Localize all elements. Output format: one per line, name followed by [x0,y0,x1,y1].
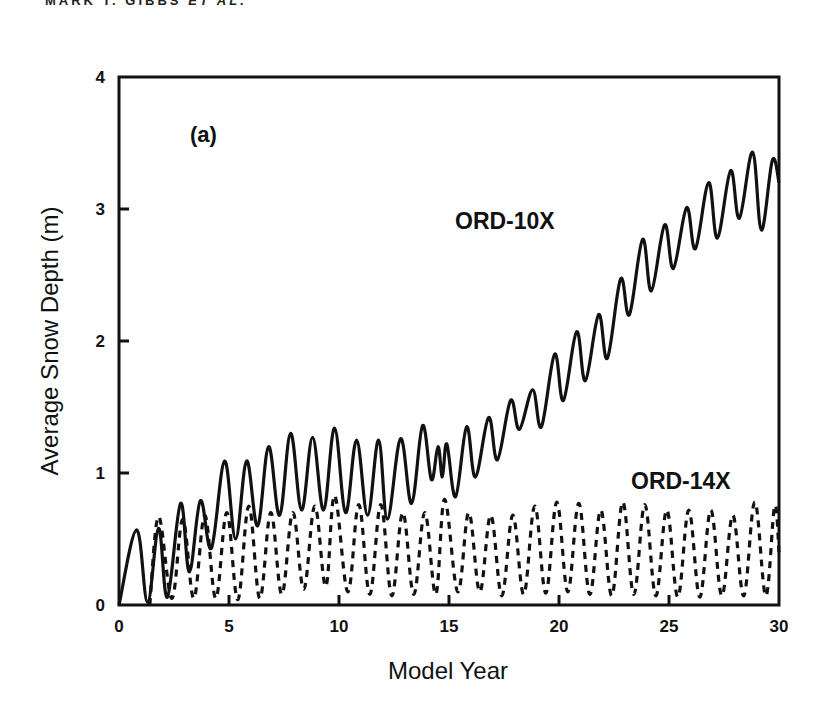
x-tick-label: 30 [770,617,789,636]
x-tick-label: 0 [114,617,123,636]
x-tick-label: 10 [330,617,349,636]
x-tick-label: 20 [550,617,569,636]
x-axis-title: Model Year [388,657,508,684]
y-tick-label: 4 [96,68,106,87]
snow-depth-chart: 05101520253001234 (a) ORD-10X ORD-14X Mo… [0,0,828,714]
y-tick-label: 2 [96,332,105,351]
x-tick-label: 25 [660,617,679,636]
x-tick-label: 5 [224,617,233,636]
series-label-ord-14x: ORD-14X [631,468,731,494]
y-tick-label: 0 [96,596,105,615]
y-axis-title: Average Snow Depth (m) [36,206,63,475]
series-label-ord-10x: ORD-10X [455,208,555,234]
y-tick-label: 3 [96,200,105,219]
series-line-ord-14x [150,495,779,605]
x-tick-label: 15 [440,617,459,636]
series-layer [119,152,779,605]
y-tick-label: 1 [96,464,105,483]
panel-label: (a) [190,122,217,147]
